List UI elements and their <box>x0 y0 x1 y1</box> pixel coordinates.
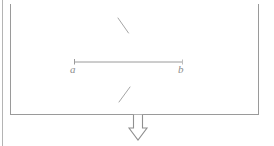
tick-lower-slash-icon <box>119 87 130 102</box>
tick-upper-backslash-icon <box>118 18 129 33</box>
segment-ab <box>74 59 183 65</box>
diagram-figure <box>0 0 274 146</box>
segment-label-b: b <box>178 64 184 75</box>
diagram-canvas: a b <box>0 0 274 146</box>
down-arrow-icon <box>129 115 147 140</box>
open-top-rectangle <box>11 5 259 115</box>
segment-label-a: a <box>70 64 76 75</box>
